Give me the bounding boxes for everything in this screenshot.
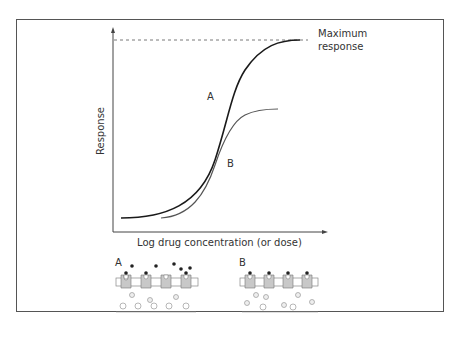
- panel-a-label: A: [115, 257, 122, 268]
- panel-b-label: B: [239, 257, 246, 268]
- max-response-label-1: Maximum: [318, 28, 367, 39]
- effectors-a: [120, 303, 189, 309]
- ligands-a: [124, 262, 192, 275]
- x-axis-label: Log drug concentration (or dose): [137, 237, 302, 248]
- curve-b-label: B: [227, 158, 234, 169]
- curve-a: [121, 40, 300, 218]
- messengers-a: [130, 293, 179, 303]
- y-axis-arrow-icon: [111, 27, 115, 33]
- ligands-b: [248, 271, 309, 275]
- dose-response-diagram: A B Maximum response Response Log drug c…: [0, 0, 459, 344]
- max-response-label-2: response: [318, 41, 363, 52]
- curve-a-label: A: [207, 91, 214, 102]
- axes: [111, 27, 328, 234]
- effectors-b: [260, 304, 296, 310]
- x-axis-arrow-icon: [322, 230, 328, 234]
- messengers-b: [245, 293, 315, 308]
- y-axis-label: Response: [95, 107, 106, 155]
- panel-b: B: [239, 257, 318, 312]
- curve-b: [161, 109, 278, 218]
- panel-a: A: [115, 257, 198, 312]
